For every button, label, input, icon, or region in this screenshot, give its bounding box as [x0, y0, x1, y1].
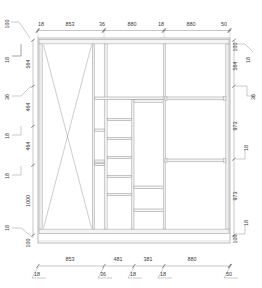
shelf-c2-2: [95, 160, 104, 162]
right-dimension-chain: 100 564 973 973 100 18 36 18 18: [232, 39, 256, 244]
cabinet-body: [38, 38, 230, 243]
top-dim-label-6: 50: [221, 21, 227, 27]
left-inner-label-0: 564: [25, 60, 31, 69]
mullion-1: [93, 44, 95, 229]
column-3: [107, 44, 164, 229]
left-outer-label-3: 18: [4, 133, 10, 139]
shelf-r1: [134, 100, 164, 103]
column-2-opening: [95, 44, 106, 229]
left-inner-label-1: 464: [25, 103, 31, 112]
shelf-n5: [107, 194, 131, 196]
right-inner-label-4: 100: [232, 235, 238, 244]
bottom-dim-label-0: 853: [66, 256, 75, 262]
shelf-c2-3: [95, 164, 104, 166]
right-outer-label-3: 18: [243, 220, 249, 226]
shelf-n1: [107, 119, 131, 121]
shelf-upper-left: [95, 97, 164, 100]
shelf-n2: [107, 138, 131, 140]
left-inner-label-2: 464: [25, 142, 31, 151]
right-outer-label-0: 18: [245, 57, 251, 63]
technical-drawing-canvas: 18 853 36 880 18 880 50 564 464 464 1000: [0, 0, 262, 288]
top-dim-label-0: 18: [38, 21, 44, 27]
left-outer-label-1: 18: [4, 57, 10, 63]
shelf-rb-1: [166, 97, 226, 100]
right-outer-label-1: 36: [250, 94, 256, 100]
right-inner-label-3: 973: [232, 192, 238, 201]
shelf-r3: [134, 209, 164, 211]
shelf-rb-2: [166, 159, 226, 162]
bottom-dimension-chain: 853 481 381 880 18 36 18 18 50: [32, 256, 238, 278]
shelf-n4: [107, 176, 131, 178]
rail-cap-left-1: [165, 96, 167, 100]
right-bay-opening: [166, 44, 226, 229]
bottom-dim-label-1: 481: [114, 256, 123, 262]
left-outer-label-0: 100: [4, 20, 10, 29]
right-bay: [166, 44, 226, 229]
bottom-dim-label-3: 880: [188, 256, 197, 262]
bottom-tick-label-0: 18: [34, 271, 40, 277]
bottom-tick-label-1: 36: [100, 271, 106, 277]
right-inner-label-2: 973: [232, 122, 238, 131]
top-dim-label-3: 880: [128, 21, 137, 27]
shelf-c2-1: [95, 129, 104, 131]
right-side-panel: [225, 44, 229, 229]
top-dimension-chain: 18 853 36 880 18 880 50: [36, 21, 232, 38]
mullion-2: [104, 44, 107, 229]
left-inner-label-4: 100: [25, 239, 31, 248]
top-rail-panel: [39, 40, 229, 45]
mullion-3: [132, 100, 134, 229]
bottom-tick-label-3: 18: [160, 271, 166, 277]
rail-cap-left-2: [165, 158, 167, 162]
left-bay-sliding-door: [43, 44, 93, 229]
right-inner-label-1: 564: [232, 62, 238, 71]
shelf-r2: [134, 186, 164, 188]
top-dim-label-4: 18: [158, 21, 164, 27]
shelf-n3: [107, 157, 131, 159]
cabinet-elevation-drawing: 18 853 36 880 18 880 50 564 464 464 1000: [0, 0, 262, 288]
column-3-opening: [107, 44, 164, 229]
left-side-panel: [39, 44, 43, 229]
bottom-tick-label-2: 18: [130, 271, 136, 277]
top-dim-label-2: 36: [99, 21, 105, 27]
left-outer-label-2: 36: [4, 94, 10, 100]
rail-cap-right-1: [223, 96, 226, 100]
top-dim-label-5: 880: [187, 21, 196, 27]
top-dim-label-1: 853: [66, 21, 75, 27]
rail-cap-right-2: [223, 158, 226, 162]
left-inner-label-3: 1000: [25, 195, 31, 207]
bottom-tick-label-4: 50: [226, 271, 232, 277]
right-outer-label-2: 18: [243, 145, 249, 151]
left-outer-label-4: 18: [4, 173, 10, 179]
mullion-4: [163, 44, 166, 229]
bottom-dim-label-2: 381: [144, 256, 153, 262]
left-dimension-chain: 564 464 464 1000 100 100 18 36 18 18 18: [4, 20, 35, 248]
bottom-rail-panel: [39, 229, 229, 234]
left-outer-label-5: 18: [4, 225, 10, 231]
column-2-shelves: [95, 44, 106, 229]
